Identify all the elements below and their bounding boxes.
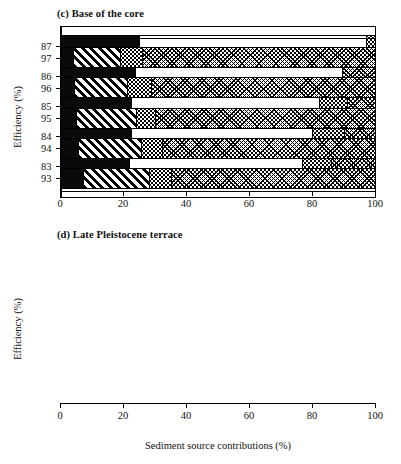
y-axis-tick-label: 84 — [41, 131, 52, 142]
bar-segment-source-1-black — [62, 48, 74, 67]
x-axis-tick-label: 60 — [244, 198, 255, 209]
x-axis-tick-label: 60 — [244, 410, 255, 421]
x-axis-tick-label: 0 — [57, 198, 62, 209]
bar-segment-source-2-diagonal — [77, 109, 137, 128]
y-axis-tick-label: 85 — [41, 101, 52, 112]
x-axis-tick-label: 40 — [181, 198, 192, 209]
bar-row[interactable] — [61, 77, 376, 98]
x-axis-tick-label: 80 — [307, 410, 318, 421]
bar-segment-source-3-stipple — [121, 48, 143, 67]
bar-segment-source-2-diagonal — [84, 169, 150, 188]
bar-segment-source-3-stipple — [137, 109, 156, 128]
bar-segment-source-3-stipple — [142, 139, 163, 158]
x-axis-tick-label: 20 — [118, 198, 129, 209]
x-axis-tick-label: 20 — [118, 410, 129, 421]
panel-d-y-axis-label: Efficiency (%) — [12, 298, 23, 360]
x-axis-tick — [249, 403, 250, 408]
bar-row[interactable] — [61, 138, 376, 159]
y-axis-tick — [56, 118, 61, 119]
bar-segment-source-4-wave — [143, 48, 375, 67]
bar-segment-source-3-stipple — [150, 169, 172, 188]
bar-segment-source-2-diagonal — [79, 139, 143, 158]
x-axis-tick — [60, 403, 61, 408]
bar-segment-source-3-stipple — [128, 78, 152, 97]
stacked-bar[interactable] — [61, 47, 376, 68]
y-axis-tick — [56, 88, 61, 89]
panel-c-y-axis-label: Efficiency (%) — [12, 86, 23, 148]
bar-segment-source-1-black — [62, 139, 79, 158]
y-axis-tick-label: 86 — [41, 70, 52, 81]
panel-c-title: (c) Base of the core — [57, 8, 144, 19]
bar-row[interactable] — [61, 108, 376, 129]
x-axis-tick — [186, 403, 187, 408]
stacked-bar[interactable] — [61, 138, 376, 159]
x-axis-label: Sediment source contributions (%) — [145, 440, 291, 451]
x-axis-tick-label: 100 — [367, 410, 383, 421]
y-axis-tick-label: 96 — [41, 82, 52, 93]
x-axis-tick — [312, 403, 313, 408]
panel-late-pleistocene-terrace: (d) Late Pleistocene terrace — [0, 226, 401, 464]
y-axis-tick-label: 97 — [41, 52, 52, 63]
bar-segment-source-4-wave — [172, 169, 375, 188]
x-axis-tick — [375, 403, 376, 408]
panel-d-plot-area: 9796959493 — [60, 38, 376, 198]
y-axis-tick-label: 87 — [41, 40, 52, 51]
x-axis-tick-label: 40 — [181, 410, 192, 421]
bar-row[interactable] — [61, 168, 376, 189]
x-axis-tick-label: 0 — [57, 410, 62, 421]
y-axis-tick — [56, 178, 61, 179]
x-axis-tick-label: 80 — [307, 198, 318, 209]
bar-segment-source-1-black — [62, 78, 75, 97]
x-axis-tick-label: 100 — [367, 198, 383, 209]
stacked-bar[interactable] — [61, 108, 376, 129]
bar-segment-source-4-wave — [163, 139, 375, 158]
y-axis-tick-label: 95 — [41, 113, 52, 124]
y-axis-tick — [56, 148, 61, 149]
panel-d-x-axis: 020406080100 — [60, 403, 375, 404]
y-axis-tick-label: 94 — [41, 143, 52, 154]
bar-segment-source-2-diagonal — [74, 48, 122, 67]
stacked-bar[interactable] — [61, 77, 376, 98]
bar-segment-source-1-black — [62, 109, 77, 128]
y-axis-tick-label: 93 — [41, 173, 52, 184]
bar-segment-source-1-black — [62, 169, 84, 188]
panel-d-title: (d) Late Pleistocene terrace — [57, 229, 183, 240]
y-axis-tick-label: 83 — [41, 161, 52, 172]
stacked-bar[interactable] — [61, 168, 376, 189]
bar-segment-source-4-wave — [156, 109, 375, 128]
y-axis-tick — [56, 58, 61, 59]
bar-segment-source-4-wave — [152, 78, 375, 97]
bar-segment-source-2-diagonal — [75, 78, 128, 97]
x-axis-tick — [123, 403, 124, 408]
bar-row[interactable] — [61, 47, 376, 68]
